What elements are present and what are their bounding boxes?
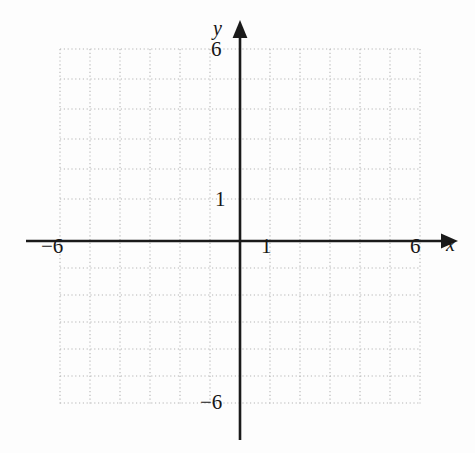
coordinate-plane <box>0 0 475 453</box>
y-axis-arrowhead <box>233 20 248 38</box>
x-axis-tick-label-6: 6 <box>410 236 421 257</box>
y-axis-tick-label-6: 6 <box>211 39 222 60</box>
x-axis <box>26 234 458 249</box>
y-axis-tick-label-1: 1 <box>215 189 226 210</box>
x-axis-tick-label-negative-6: −6 <box>41 236 63 257</box>
y-axis-tick-label-negative-6: −6 <box>200 392 222 413</box>
x-axis-tick-label-1: 1 <box>261 236 272 257</box>
y-axis-name-label: y <box>213 18 222 38</box>
x-axis-name-label: x <box>446 234 455 254</box>
graph-figure: 6 1 −6 −6 1 6 y x <box>0 0 475 453</box>
y-axis <box>233 20 248 440</box>
